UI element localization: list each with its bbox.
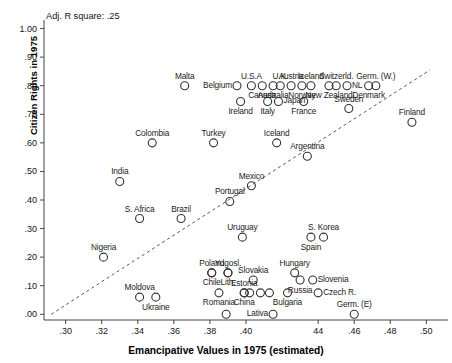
data-point	[303, 152, 311, 160]
data-point-label: Italy	[260, 107, 274, 116]
data-point-label: Spain	[301, 243, 321, 252]
data-point-label: Sweden	[334, 95, 363, 104]
x-tick-label: .32	[95, 326, 108, 336]
data-point	[256, 289, 264, 297]
data-point	[258, 82, 266, 90]
x-tick-label: .30	[59, 326, 72, 336]
y-tick-label: .00	[24, 309, 37, 319]
data-point-label: Germ. (E)	[337, 300, 372, 309]
data-point	[309, 276, 317, 284]
data-point-label: Russia	[288, 286, 312, 295]
data-point	[345, 105, 353, 113]
data-point-label: Iceland	[264, 129, 290, 138]
r-square-annotation: Adj. R square: .25	[46, 11, 120, 21]
data-point-label: Portugal	[215, 187, 245, 196]
data-point	[136, 293, 144, 301]
x-tick-label: 44	[313, 326, 323, 336]
data-point	[224, 269, 232, 277]
x-tick-label: .38	[204, 326, 217, 336]
data-point	[148, 139, 156, 147]
data-point-label: Nigeria	[91, 243, 116, 252]
data-point	[343, 82, 351, 90]
data-point	[238, 233, 246, 241]
data-point	[116, 177, 124, 185]
data-point	[273, 139, 281, 147]
data-point	[320, 233, 328, 241]
data-point-label: Germ. (W.)	[356, 72, 395, 81]
data-point	[298, 82, 306, 90]
data-point-label: Lativa	[247, 309, 268, 318]
data-point	[181, 82, 189, 90]
data-point-label: Turkey	[201, 129, 225, 138]
data-point	[408, 118, 416, 126]
data-point	[246, 289, 254, 297]
data-point	[152, 293, 160, 301]
data-point-label: India	[111, 167, 128, 176]
data-point	[177, 215, 185, 223]
data-point-label: Switzerld.	[319, 72, 353, 81]
data-point	[136, 215, 144, 223]
data-point-label: Chile	[203, 278, 221, 287]
scatter-plot: Adj. R square: .25 MaltaU.S.AU.K.Austria…	[0, 0, 452, 363]
data-point	[100, 253, 108, 261]
x-tick-label: .40	[240, 326, 253, 336]
data-point-label: Estonia	[231, 279, 258, 288]
data-point-label: Japan	[283, 96, 305, 105]
data-point	[210, 139, 218, 147]
data-point-label: France	[291, 107, 316, 116]
data-point	[350, 310, 358, 318]
x-tick-marks	[66, 320, 427, 324]
y-tick-label: .20	[24, 252, 37, 262]
x-tick-label: .48	[384, 326, 397, 336]
y-tick-label: .40	[24, 195, 37, 205]
data-point-label: S. Korea	[308, 223, 339, 232]
data-point	[307, 82, 315, 90]
data-point	[247, 82, 255, 90]
data-point-label: S. Africa	[125, 205, 155, 214]
data-point-label: China	[234, 298, 255, 307]
data-point-label: Argentina	[290, 142, 324, 151]
data-point-label: Belgium	[203, 81, 232, 90]
data-point-label: Slovenia	[318, 275, 349, 284]
data-point	[269, 310, 277, 318]
x-tick-label: .50	[420, 326, 433, 336]
data-point-label: Hungary	[280, 259, 310, 268]
data-point	[314, 289, 322, 297]
data-point	[222, 310, 230, 318]
data-point	[296, 276, 304, 284]
y-tick-label: .10	[24, 281, 37, 291]
data-point-label: Mexico	[239, 172, 264, 181]
data-point	[237, 97, 245, 105]
data-point	[233, 82, 241, 90]
data-point-label: Moldova	[124, 283, 154, 292]
data-point-label: Malta	[175, 72, 195, 81]
data-point-label: Slovakia	[238, 266, 268, 275]
data-point-label: Ireland	[228, 107, 252, 116]
data-point-label: Brazil	[171, 205, 191, 214]
y-tick-marks	[40, 29, 44, 315]
data-point-label: Bulgaria	[273, 298, 302, 307]
data-point-label: Czech R.	[323, 288, 356, 297]
data-point	[307, 233, 315, 241]
data-point	[291, 269, 299, 277]
y-axis-title: Citizen Rights in 1975	[28, 6, 39, 166]
x-tick-label: .34	[132, 326, 145, 336]
y-tick-label: .30	[24, 224, 37, 234]
data-point-label: NL	[352, 81, 362, 90]
data-point-label: Finland	[399, 108, 425, 117]
data-point-label: Colombia	[135, 129, 169, 138]
data-point	[287, 82, 295, 90]
plot-canvas	[0, 0, 452, 363]
data-point-label: Yugosl.	[215, 259, 241, 268]
x-axis-title: Emancipative Values in 1975 (estimated)	[0, 345, 452, 356]
x-tick-label: .36	[168, 326, 181, 336]
data-point	[208, 269, 216, 277]
y-tick-label: .50	[24, 166, 37, 176]
data-point-label: Romania	[203, 298, 235, 307]
x-tick-label: .46	[348, 326, 361, 336]
data-point	[265, 289, 273, 297]
data-point	[247, 182, 255, 190]
data-point-label: Ukraine	[142, 303, 170, 312]
data-point-label: U.S.A	[241, 72, 262, 81]
data-point	[215, 289, 223, 297]
